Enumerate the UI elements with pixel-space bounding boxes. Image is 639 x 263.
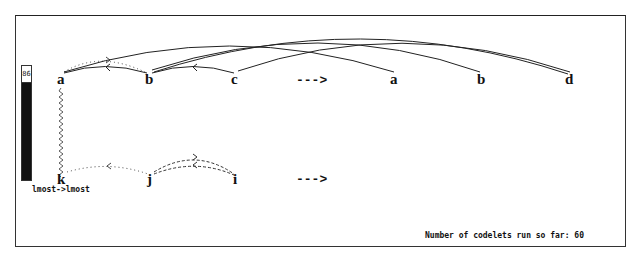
target-letter-i: i (233, 172, 237, 187)
workspace-frame (15, 15, 626, 247)
modified-letter-d: d (565, 72, 573, 87)
initial-letter-b: b (145, 72, 153, 87)
thermometer-empty-region: 86 (22, 66, 31, 83)
modified-letter-b: b (477, 72, 485, 87)
target-letter-j: j (147, 172, 152, 187)
modified-letter-a: a (390, 72, 398, 87)
bottom-transform-arrow: ---> (296, 173, 327, 186)
initial-letter-a: a (57, 72, 65, 87)
temperature-thermometer: 86 (21, 65, 32, 181)
correspondence-rule-label: lmost->lmost (32, 185, 90, 194)
initial-letter-c: c (231, 72, 238, 87)
top-transform-arrow: ---> (296, 74, 327, 87)
temperature-value: 86 (22, 70, 31, 78)
codelets-count-status: Number of codelets run so far: 60 (425, 231, 584, 240)
